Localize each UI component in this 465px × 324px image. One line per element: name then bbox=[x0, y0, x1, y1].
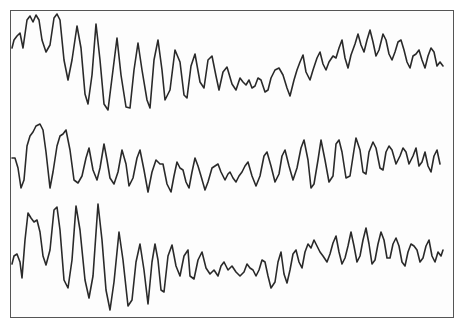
waveform-trace-3 bbox=[12, 204, 443, 310]
waveform-plot bbox=[0, 0, 465, 324]
waveform-trace-1 bbox=[12, 14, 443, 110]
waveform-trace-2 bbox=[12, 124, 440, 192]
